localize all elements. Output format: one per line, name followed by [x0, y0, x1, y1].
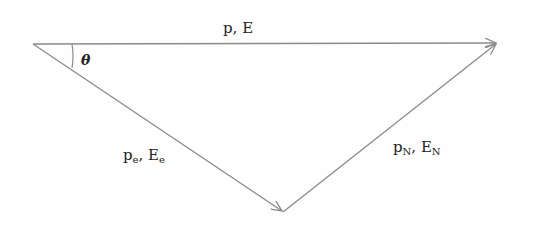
- nucleus-label-comma: ,: [411, 138, 421, 156]
- electron-vector-label: pe, Ee: [123, 146, 165, 165]
- incident-vector-label: p, E: [223, 19, 253, 37]
- vector-lines: [0, 0, 545, 227]
- electron-label-comma: ,: [139, 146, 149, 164]
- nucleus-vector-label: pN, EN: [393, 138, 441, 157]
- incident-vector-arrow: [33, 43, 496, 44]
- electron-momentum-symbol: p: [123, 146, 133, 164]
- nucleus-vector-arrow: [283, 44, 496, 212]
- angle-arc: [72, 44, 73, 68]
- electron-vector-arrow: [33, 44, 282, 211]
- incident-label-text: p, E: [223, 19, 253, 37]
- electron-energy-subscript: e: [159, 154, 165, 165]
- vector-diagram: p, E θ pe, Ee pN, EN: [0, 0, 545, 227]
- theta-symbol: θ: [81, 52, 90, 68]
- nucleus-momentum-symbol: p: [393, 138, 403, 156]
- nucleus-energy-symbol: E: [421, 138, 432, 156]
- nucleus-energy-subscript: N: [432, 146, 441, 157]
- angle-theta-label: θ: [81, 52, 90, 68]
- electron-energy-symbol: E: [148, 146, 159, 164]
